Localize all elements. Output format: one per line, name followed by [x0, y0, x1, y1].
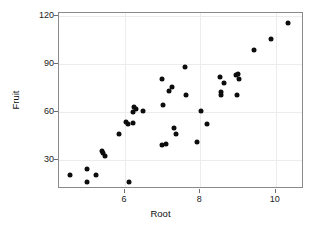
x-tick-mark [124, 189, 125, 193]
x-tick-mark [199, 189, 200, 193]
x-tick-label: 10 [270, 194, 280, 204]
x-tick-label: 6 [121, 194, 126, 204]
x-axis-ticks: 6810 [0, 0, 321, 232]
x-tick-mark [275, 189, 276, 193]
scatter-plot-figure: Fruit Root 306090120 6810 [0, 0, 321, 232]
x-tick-label: 8 [197, 194, 202, 204]
